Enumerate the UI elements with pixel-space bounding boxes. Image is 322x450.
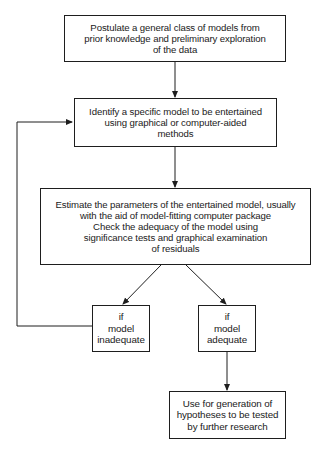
node-identify: Identify a specific model to be entertai… — [74, 98, 277, 147]
node-inadequate-text: if model inadequate — [97, 311, 145, 346]
node-estimate: Estimate the parameters of the entertain… — [40, 188, 311, 265]
node-postulate-text: Postulate a general class of models from… — [84, 22, 265, 55]
node-estimate-text: Estimate the parameters of the entertain… — [55, 199, 295, 254]
node-adequate: if model adequate — [198, 305, 256, 352]
node-use: Use for generation of hypotheses to be t… — [169, 391, 286, 439]
node-use-text: Use for generation of hypotheses to be t… — [177, 398, 279, 433]
node-identify-text: Identify a specific model to be entertai… — [89, 106, 262, 139]
arrow-estimate-to-adequate — [186, 265, 226, 304]
arrow-estimate-to-inadequate — [123, 265, 161, 304]
node-adequate-text: if model adequate — [207, 311, 247, 346]
node-postulate: Postulate a general class of models from… — [64, 15, 286, 62]
node-inadequate: if model inadequate — [92, 305, 150, 352]
